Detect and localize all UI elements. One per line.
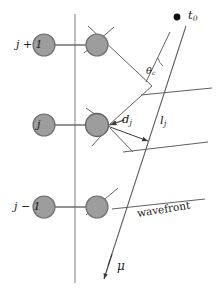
mu-direction-label: μ bbox=[117, 260, 125, 272]
node-right-row-top bbox=[86, 34, 108, 56]
source-time-label: t0 bbox=[188, 10, 198, 22]
angle-arc bbox=[158, 58, 163, 66]
distance-l-label: lj bbox=[160, 115, 166, 127]
row-label-j-plus-1: j + 1 bbox=[16, 39, 43, 50]
source-point-dot bbox=[174, 14, 181, 21]
angle-symbol: θ bbox=[146, 65, 152, 76]
distance-d-symbol: d bbox=[122, 112, 129, 126]
angle-label: θc bbox=[146, 66, 155, 77]
wave-propagation-diagram: j + 1 j j − 1 t0 θc dj lj wavefront μ bbox=[0, 0, 219, 288]
angle-subscript: c bbox=[152, 69, 156, 76]
row-label-j-minus-1: j − 1 bbox=[14, 201, 41, 212]
wavefront-line-middle bbox=[123, 142, 208, 152]
distance-d-label: dj bbox=[122, 114, 132, 126]
source-time-subscript: 0 bbox=[193, 14, 198, 23]
mu-direction-arrow bbox=[104, 254, 112, 279]
distance-d-subscript: j bbox=[130, 118, 132, 127]
source-time-symbol: t bbox=[188, 8, 193, 22]
row-label-j: j bbox=[37, 119, 40, 130]
node-right-row-middle bbox=[86, 114, 109, 137]
distance-l-subscript: j bbox=[164, 119, 166, 128]
node-right-row-bottom bbox=[86, 196, 108, 218]
wavefront-line-upper bbox=[141, 88, 212, 95]
